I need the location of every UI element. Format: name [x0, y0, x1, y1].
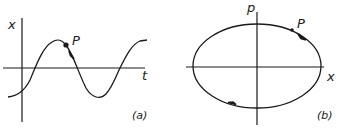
figure: x t P (a) p x P (b) — [0, 0, 338, 129]
x-axis-label: t — [142, 68, 148, 83]
x-axis-label: x — [326, 69, 335, 84]
direction-arrow-icon — [298, 34, 306, 40]
direction-arrow-icon — [69, 51, 74, 59]
sine-curve — [8, 40, 147, 98]
y-axis-label: x — [7, 17, 16, 32]
panel-b: p x P (b) — [186, 0, 335, 125]
y-axis-label: p — [246, 0, 255, 15]
caption: (a) — [132, 109, 147, 122]
point-p-marker — [290, 28, 294, 32]
caption: (b) — [317, 109, 333, 122]
diagram-canvas: x t P (a) p x P (b) — [0, 0, 338, 129]
point-label: P — [72, 33, 80, 48]
point-p-marker — [63, 42, 68, 47]
point-label: P — [297, 16, 305, 31]
panel-a: x t P (a) — [3, 17, 148, 122]
